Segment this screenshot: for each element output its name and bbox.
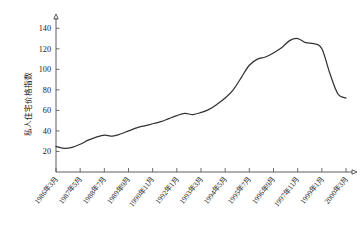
y-axis-tick-label: 80: [43, 86, 51, 95]
y-axis-tick-label: 60: [43, 106, 51, 115]
x-axis-tick-label: 1987年5月: [57, 175, 84, 206]
y-axis-tick-label: 120: [39, 45, 51, 54]
y-axis-tick-label: 20: [43, 147, 51, 156]
x-axis: 1986年3月1987年5月1988年7月1989年9月1990年11月1992…: [32, 168, 349, 209]
x-axis-tick-label: 1999年1月: [298, 175, 325, 206]
x-axis-tick-label: 2000年3月: [322, 175, 349, 206]
x-axis-arrow-icon: [352, 170, 357, 174]
axis-lines: [54, 14, 357, 174]
x-axis-tick-label: 1995年7月: [226, 175, 253, 206]
x-axis-tick-label: 1994年5月: [202, 175, 229, 206]
private-residential-price-index-chart: 私人住宅价格指数 20406080100120140 1986年3月1987年5…: [0, 0, 364, 238]
y-axis-tick-label: 140: [39, 24, 51, 33]
y-axis-title-group: 私人住宅价格指数: [23, 72, 33, 136]
y-axis-tick-label: 100: [39, 65, 51, 74]
price-index-line: [56, 38, 346, 148]
x-axis-tick-label: 1992年1月: [153, 175, 180, 206]
chart-container: 私人住宅价格指数 20406080100120140 1986年3月1987年5…: [0, 0, 364, 238]
data-series-group: [56, 38, 346, 148]
y-axis-title: 私人住宅价格指数: [23, 72, 33, 136]
y-axis-tick-label: 40: [43, 127, 51, 136]
x-axis-tick-label: 1993年3月: [177, 175, 204, 206]
x-axis-tick-label: 1986年3月: [32, 175, 59, 206]
x-axis-tick-label: 1988年7月: [81, 175, 108, 206]
